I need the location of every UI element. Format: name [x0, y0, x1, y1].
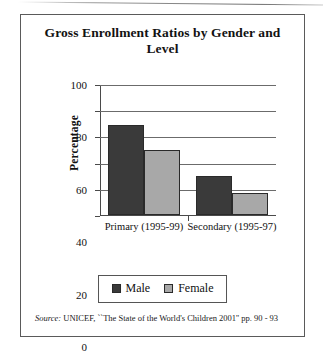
gridline — [100, 85, 276, 86]
bar-female-1 — [232, 193, 268, 215]
x-axis-category-label: Primary (1995-99) — [105, 221, 183, 232]
chart-title: Gross Enrollment Ratios by Gender and Le… — [43, 25, 282, 58]
x-tick-mark — [188, 216, 189, 221]
y-tick-label: 100 — [71, 79, 88, 91]
legend-label-female: Female — [178, 281, 213, 296]
bar-female-0 — [144, 150, 180, 216]
legend-item-male[interactable]: Male — [112, 281, 151, 296]
y-tick-label: 20 — [76, 289, 87, 301]
y-tick-label: 60 — [76, 184, 87, 196]
y-tick-mark: 60 — [95, 137, 100, 138]
source-note: Source: UNICEF, ``The State of the World… — [35, 313, 278, 323]
scan-artifact-line — [18, 2, 323, 6]
source-text: UNICEF, ``The State of the World's Child… — [63, 313, 278, 323]
legend-swatch-female — [164, 284, 173, 293]
y-tick-label: 80 — [76, 131, 87, 143]
plot-area: 020406080100 Primary (1995-99)Secondary … — [100, 85, 276, 216]
y-axis-line — [100, 85, 101, 216]
gridline — [100, 111, 276, 112]
y-tick-label: 0 — [82, 341, 88, 353]
y-tick-label: 40 — [76, 236, 87, 248]
y-tick-mark: 20 — [95, 190, 100, 191]
legend-item-female[interactable]: Female — [164, 281, 213, 296]
y-tick-mark: 80 — [95, 111, 100, 112]
y-tick-mark: 40 — [95, 164, 100, 165]
legend-swatch-male — [112, 284, 121, 293]
source-label: Source: — [35, 313, 61, 323]
x-axis-category-label: Secondary (1995-97) — [188, 221, 277, 232]
y-tick-mark: 0 — [95, 216, 100, 217]
y-tick-mark: 100 — [95, 85, 100, 86]
figure-frame: Gross Enrollment Ratios by Gender and Le… — [20, 14, 305, 337]
plot-region: Percentage 020406080100 Primary (1995-99… — [21, 73, 304, 251]
bar-male-0 — [108, 125, 144, 215]
legend-label-male: Male — [126, 281, 151, 296]
chart-legend: Male Female — [98, 275, 228, 303]
bar-male-1 — [196, 176, 232, 215]
